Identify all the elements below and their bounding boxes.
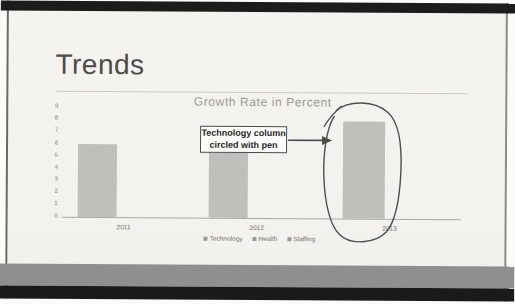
x-tick-label: 2013 [370, 225, 410, 232]
legend-swatch-icon [204, 236, 208, 240]
bar-technology-2013 [343, 121, 386, 218]
slide-rotation-wrapper: Trends Growth Rate in Percent 0123456789… [0, 0, 515, 304]
chart-title: Growth Rate in Percent [150, 94, 375, 109]
chart-legend: TechnologyHealthStaffing [184, 235, 334, 243]
y-tick-label: 0 [40, 212, 58, 218]
y-tick-label: 5 [40, 151, 58, 157]
y-tick-label: 3 [40, 176, 58, 182]
x-tick-label: 2011 [104, 223, 144, 230]
y-tick-label: 1 [40, 200, 58, 206]
callout-text-line1: Technology column [201, 128, 285, 140]
bar-technology-2012 [209, 145, 248, 218]
y-tick-label: 4 [40, 164, 58, 170]
slide-bottom-black-band [0, 285, 514, 301]
y-tick-label: 9 [40, 103, 58, 109]
slide-title: Trends [55, 49, 144, 82]
legend-item-technology: Technology [204, 235, 243, 242]
legend-label: Health [259, 235, 278, 242]
y-tick-label: 8 [40, 115, 58, 121]
callout-text-line2: circled with pen [209, 139, 277, 151]
legend-item-staffing: Staffing [287, 235, 315, 242]
y-tick-label: 6 [40, 139, 58, 145]
slide-bottom-gray-band [0, 263, 514, 288]
bar-technology-2011 [78, 144, 117, 217]
y-tick-label: 2 [40, 188, 58, 194]
callout-box: Technology column circled with pen [200, 126, 287, 154]
legend-label: Staffing [293, 235, 315, 242]
x-tick-label: 2012 [237, 224, 277, 231]
legend-item-health: Health [253, 235, 278, 242]
legend-swatch-icon [287, 237, 291, 241]
legend-swatch-icon [253, 236, 257, 240]
y-tick-label: 7 [40, 127, 58, 133]
slide-photo: Trends Growth Rate in Percent 0123456789… [0, 0, 515, 304]
legend-label: Technology [210, 235, 243, 242]
